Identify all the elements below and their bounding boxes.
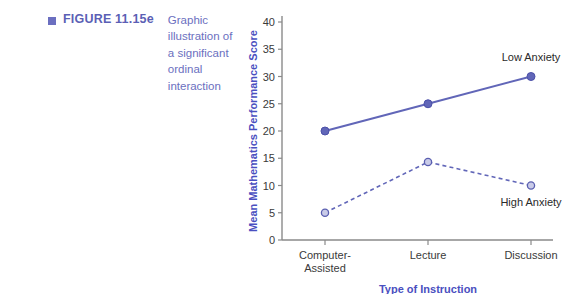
x-tick-label: Assisted <box>304 262 346 274</box>
y-tick-label: 0 <box>269 234 275 246</box>
y-tick-label: 15 <box>263 152 275 164</box>
y-tick-label: 40 <box>263 16 275 28</box>
figure-description: Graphic illustration of a significant or… <box>168 12 242 94</box>
series-data-point <box>527 182 534 189</box>
series-data-point <box>424 158 431 165</box>
x-axis-title: Type of Instruction <box>379 283 477 294</box>
y-tick-label: 5 <box>269 207 275 219</box>
series-label: High Anxiety <box>500 196 562 208</box>
square-bullet-icon <box>48 17 56 25</box>
series-data-point <box>321 209 328 216</box>
x-tick-label: Discussion <box>504 249 557 261</box>
y-axis-title: Mean Mathematics Performance Score <box>247 30 259 232</box>
x-axis: Computer-AssistedLectureDiscussion <box>282 240 558 274</box>
y-tick-label: 10 <box>263 180 275 192</box>
y-tick-label: 20 <box>263 125 275 137</box>
series-data-point <box>424 100 432 108</box>
line-chart: 0510152025303540 Computer-AssistedLectur… <box>246 8 577 294</box>
y-tick-label: 35 <box>263 43 275 55</box>
chart-svg: 0510152025303540 Computer-AssistedLectur… <box>246 8 577 294</box>
y-axis: 0510152025303540 <box>263 16 282 246</box>
figure-caption-block: FIGURE 11.15e Graphic illustration of a … <box>48 12 258 94</box>
series-label: Low Anxiety <box>502 51 561 63</box>
y-tick-label: 30 <box>263 71 275 83</box>
series-data-point <box>527 73 535 81</box>
x-tick-label: Computer- <box>299 249 351 261</box>
x-tick-label: Lecture <box>410 249 447 261</box>
y-tick-label: 25 <box>263 98 275 110</box>
series-data-point <box>321 127 329 135</box>
chart-series-group: Low AnxietyHigh Anxiety <box>321 51 562 217</box>
figure-label: FIGURE 11.15e <box>63 12 154 26</box>
